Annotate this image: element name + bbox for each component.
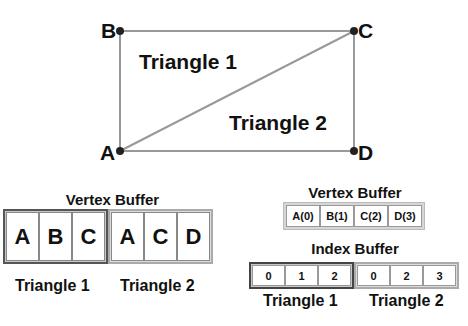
triangle-2-label: Triangle 2: [229, 111, 327, 134]
index-buffer-title: Index Buffer: [280, 240, 430, 257]
vertex-cell: B(1): [320, 205, 354, 227]
vertex-label-a: A: [100, 141, 115, 164]
right-vertex-buffer: A(0) B(1) C(2) D(3): [283, 202, 425, 230]
vertex-cell: C(2): [354, 205, 388, 227]
buffer-cell: A: [6, 212, 39, 261]
vertex-dot-c: [350, 27, 358, 35]
index-cell: 2: [318, 265, 351, 286]
left-caption-triangle-1: Triangle 1: [15, 277, 90, 295]
vertex-label-d: D: [358, 141, 373, 164]
left-triangle-1-group: A B C: [3, 209, 108, 264]
index-triangle-1-group: 0 1 2: [249, 262, 354, 289]
vertex-label-c: C: [358, 19, 373, 42]
vertex-cell: A(0): [286, 205, 320, 227]
buffer-cell: B: [39, 212, 72, 261]
left-triangle-2-group: A C D: [108, 209, 213, 264]
index-cell: 1: [285, 265, 318, 286]
buffer-cell: A: [111, 212, 144, 261]
right-vertex-buffer-title: Vertex Buffer: [280, 184, 430, 201]
index-cell: 0: [252, 265, 285, 286]
buffer-cell: D: [177, 212, 210, 261]
index-triangle-2-group: 0 2 3: [354, 262, 459, 289]
vertex-dot-b: [116, 27, 124, 35]
vertex-cell: D(3): [388, 205, 422, 227]
left-vertex-buffer: A B C A C D: [3, 209, 213, 264]
index-buffer: 0 1 2 0 2 3: [249, 262, 459, 289]
index-cell: 2: [390, 265, 423, 286]
right-caption-triangle-1: Triangle 1: [263, 292, 338, 310]
right-caption-triangle-2: Triangle 2: [369, 292, 444, 310]
buffer-cell: C: [72, 212, 105, 261]
triangle-1-label: Triangle 1: [139, 50, 237, 73]
left-caption-triangle-2: Triangle 2: [120, 277, 195, 295]
index-cell: 3: [423, 265, 456, 286]
vertex-label-b: B: [101, 19, 116, 42]
index-cell: 0: [357, 265, 390, 286]
vertex-dot-a: [116, 147, 124, 155]
vertex-dot-d: [350, 147, 358, 155]
left-vertex-buffer-title: Vertex Buffer: [0, 191, 225, 208]
buffer-cell: C: [144, 212, 177, 261]
vertex-buffer-group: A(0) B(1) C(2) D(3): [283, 202, 425, 230]
